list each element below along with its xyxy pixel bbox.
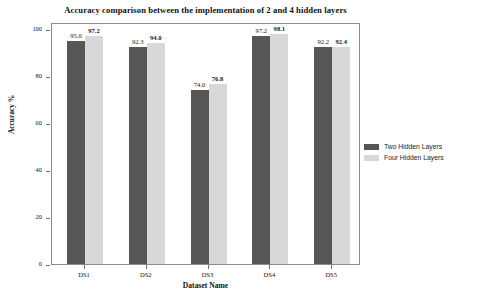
y-tick-label: 100 [32,25,42,32]
bar[interactable] [209,84,227,264]
x-tick-label: DS2 [116,271,176,278]
x-tick-mark [84,265,85,269]
legend-label: Four Hidden Layers [384,154,444,161]
plot-area: 95.097.292.394.074.076.897.298.192.292.4 [51,23,360,265]
bar-value-label: 76.8 [201,75,235,82]
y-tick-label: 60 [36,119,42,126]
legend-label: Two Hidden Layers [384,143,442,150]
x-tick-mark [331,265,332,269]
bar-value-label: 94.0 [139,34,173,41]
bar-group: 95.097.2 [67,24,103,264]
x-tick: DS3 [178,266,238,278]
figure-canvas: Accuracy comparison between the implemen… [0,0,479,298]
y-tick: 40 [0,171,51,172]
bar[interactable] [129,47,147,264]
x-tick: DS4 [239,266,299,278]
y-tick: 80 [0,77,51,78]
y-tick-label: 80 [36,72,42,79]
x-axis-label: Dataset Name [51,281,360,290]
x-tick: DS2 [116,266,176,278]
y-tick-mark [46,124,50,125]
y-tick-mark [46,265,50,266]
bar-group: 97.298.1 [252,24,288,264]
bar-value-label: 98.1 [262,25,296,32]
x-tick-mark [146,265,147,269]
y-tick-mark [46,171,50,172]
y-tick-mark [46,218,50,219]
x-tick-mark [269,265,270,269]
chart-title: Accuracy comparison between the implemen… [51,4,360,16]
bar[interactable] [314,47,332,264]
bar-value-label: 92.4 [324,38,358,45]
bar[interactable] [191,90,209,264]
bar-value-label: 97.2 [77,27,111,34]
bar[interactable] [332,47,350,264]
legend-swatch [364,144,379,150]
bar[interactable] [270,34,288,264]
y-tick: 60 [0,124,51,125]
bar[interactable] [252,36,270,264]
bar-group: 92.292.4 [314,24,350,264]
y-tick-mark [46,30,50,31]
y-tick-mark [46,77,50,78]
y-tick-label: 40 [36,166,42,173]
bar[interactable] [85,36,103,264]
x-tick-mark [208,265,209,269]
y-tick-label: 0 [39,260,42,267]
x-tick-label: DS4 [239,271,299,278]
legend-item[interactable]: Two Hidden Layers [364,141,444,152]
x-tick-label: DS1 [54,271,114,278]
bar[interactable] [67,41,85,264]
x-tick-label: DS5 [301,271,361,278]
y-tick: 100 [0,30,51,31]
bars-layer: 95.097.292.394.074.076.897.298.192.292.4 [52,24,359,264]
x-tick-label: DS3 [178,271,238,278]
y-tick-label: 20 [36,213,42,220]
legend-item[interactable]: Four Hidden Layers [364,152,444,163]
bar-group: 74.076.8 [191,24,227,264]
bar[interactable] [147,43,165,264]
x-tick: DS5 [301,266,361,278]
y-tick: 20 [0,218,51,219]
x-tick: DS1 [54,266,114,278]
bar-group: 92.394.0 [129,24,165,264]
y-axis-label: Accuracy % [7,70,16,160]
y-tick: 0 [0,265,51,266]
legend: Two Hidden LayersFour Hidden Layers [364,141,444,163]
legend-swatch [364,155,379,161]
